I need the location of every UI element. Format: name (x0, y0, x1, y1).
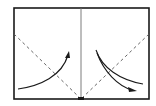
right-fold-arrow-icon (96, 50, 143, 92)
fold-diagram (0, 0, 156, 106)
left-valley-fold-line (14, 34, 81, 99)
left-fold-arrow-icon (18, 51, 70, 89)
right-valley-fold-line (81, 34, 149, 99)
bottom-point-marker (78, 97, 84, 100)
